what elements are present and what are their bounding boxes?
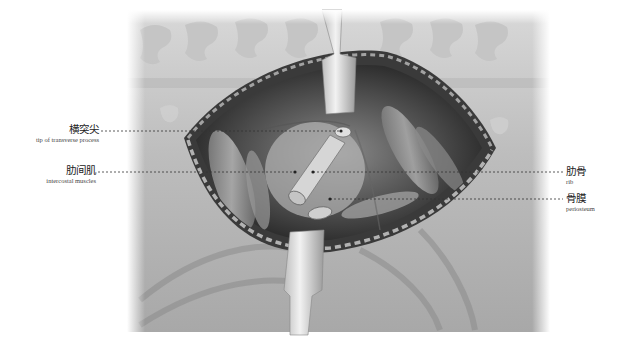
label-periosteum: 骨膜 periosteum <box>566 193 595 212</box>
label-zh: 肋骨 <box>566 166 586 177</box>
label-en: intercostal muscles <box>46 178 96 185</box>
label-zh: 横突尖 <box>36 124 99 135</box>
label-en: tip of transverse process <box>36 137 99 144</box>
label-zh: 肋间肌 <box>46 165 96 176</box>
label-en: rib <box>566 179 586 186</box>
label-rib: 肋骨 rib <box>566 166 586 185</box>
label-en: periosteum <box>566 206 595 213</box>
label-zh: 骨膜 <box>566 193 595 204</box>
label-transverse-process: 横突尖 tip of transverse process <box>36 124 99 143</box>
label-intercostal-muscles: 肋间肌 intercostal muscles <box>46 165 96 184</box>
